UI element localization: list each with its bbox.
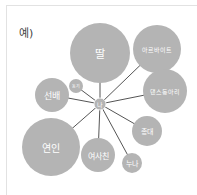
node-label: 댄스동아리 [150, 87, 180, 96]
node-label: 선배 [44, 89, 60, 102]
node-label: 연인 [42, 140, 60, 155]
node-label: 딸 [95, 45, 105, 61]
node-label: 여사친 [88, 150, 109, 161]
node-label: 나 [97, 100, 103, 109]
node-label: 아르바이트 [142, 45, 172, 54]
node-label: 누나 [126, 158, 138, 168]
node-label: 동기 [72, 83, 80, 89]
relationship-diagram [0, 0, 197, 195]
node-label: 총대 [141, 126, 153, 136]
